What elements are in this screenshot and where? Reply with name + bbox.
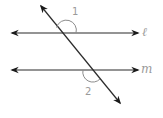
angle-1-label: 1 <box>72 7 78 17</box>
angle-1-arc <box>57 20 77 33</box>
line-m-label: m <box>141 63 152 75</box>
transversal-line <box>41 6 120 103</box>
line-l-label: ℓ <box>142 26 147 38</box>
parallel-lines-diagram <box>0 0 163 118</box>
angle-2-label: 2 <box>85 87 91 97</box>
